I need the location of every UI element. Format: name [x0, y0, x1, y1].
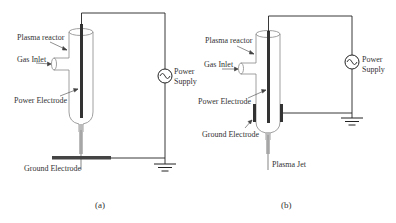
plasma-jet-diagrams: Plasma reactor Gas Inlet Power Electrode…: [0, 0, 396, 223]
label-gas-inlet: Gas Inlet: [17, 55, 47, 64]
ground-electrode-left: [253, 104, 256, 122]
ground-symbol-icon: [154, 164, 176, 171]
label-plasma-reactor: Plasma reactor: [17, 33, 65, 42]
label-power-supply-1: Power: [174, 67, 195, 76]
label-power-electrode: Power Electrode: [14, 96, 68, 105]
ground-electrode-right: [280, 104, 283, 122]
label-power-supply-2: Supply: [174, 77, 197, 86]
power-electrode: [267, 31, 270, 123]
power-electrode: [80, 24, 83, 118]
ac-power-supply-icon: [158, 69, 172, 83]
plasma-reactor-tube: [239, 31, 281, 141]
supply-wire: [269, 16, 353, 56]
label-power-supply-2: Supply: [362, 65, 385, 74]
ground-electrode-plate: [52, 156, 111, 160]
plasma-reactor-tube: [52, 29, 94, 133]
label-power-supply-1: Power: [362, 55, 383, 64]
supply-wire: [82, 13, 166, 70]
caption-b: (b): [281, 200, 292, 210]
caption-a: (a): [95, 200, 105, 210]
label-gas-inlet: Gas Inlet: [204, 60, 234, 69]
label-ground-electrode: Ground Electrode: [24, 164, 82, 173]
label-power-electrode: Power Electrode: [198, 97, 252, 106]
diagram-a: Plasma reactor Gas Inlet Power Electrode…: [14, 13, 197, 210]
label-ground-electrode: Ground Electrode: [202, 130, 260, 139]
diagram-b: Plasma reactor Gas Inlet Power Electrode…: [198, 16, 385, 210]
label-plasma-jet: Plasma Jet: [272, 160, 307, 169]
ground-symbol-icon: [341, 118, 363, 125]
label-plasma-reactor: Plasma reactor: [205, 36, 253, 45]
ac-power-supply-icon: [345, 55, 359, 69]
